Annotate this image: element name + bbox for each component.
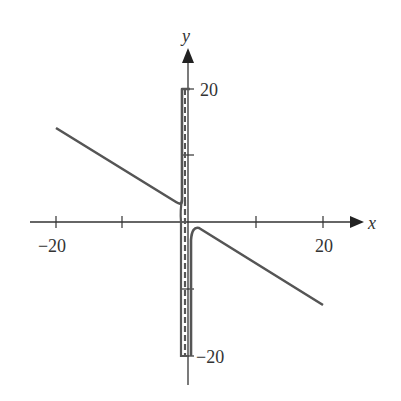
x-axis: [30, 216, 364, 228]
y-axis-label: y: [180, 26, 190, 46]
y-tick-label-neg20: −20: [196, 347, 224, 367]
x-axis-label: x: [367, 213, 376, 233]
y-axis-arrow-icon: [182, 48, 194, 63]
curve-right-branch: [191, 228, 323, 356]
x-tick-label-20: 20: [315, 236, 333, 256]
chart: y x −20 20 20 −20: [0, 0, 401, 401]
y-tick-label-20: 20: [200, 80, 218, 100]
x-tick-label-neg20: −20: [38, 236, 66, 256]
curve-left-branch: [56, 89, 190, 204]
x-axis-arrow-icon: [350, 216, 364, 228]
